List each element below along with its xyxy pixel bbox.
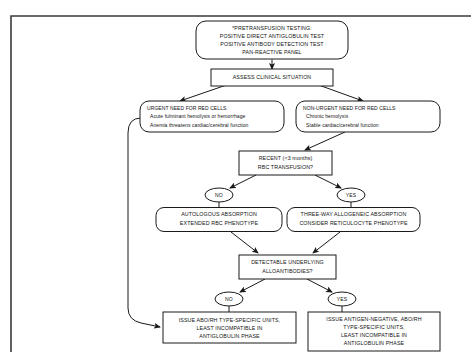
flowchart-diagram: *PRETRANSFUSION TESTING: POSITIVE DIRECT… — [0, 0, 471, 363]
connector-assess-to-urgent — [180, 86, 225, 102]
connector-detectable-to-no — [240, 279, 265, 292]
issue-type-specific-line-1: ISSUE ABO/RH TYPE-SPECIFIC UNITS, — [179, 317, 281, 323]
node-urgent-need: URGENT NEED FOR RED CELLS Acute fulminan… — [140, 101, 284, 132]
assess-clinical-situation-line-1: ASSESS CLINICAL SITUATION — [233, 74, 312, 80]
connector-group — [128, 60, 363, 328]
issue-antigen-negative-line-2: TYPE-SPECIFIC UNITS, — [343, 324, 404, 330]
issue-antigen-negative-line-4: ANTIGLOBULIN PHASE — [344, 340, 405, 346]
recent-yes-text: YES — [346, 192, 357, 198]
autologous-absorption-line-1: AUTOLOGOUS ABSORPTION — [181, 211, 257, 217]
connector-detectable-to-yes — [307, 279, 332, 292]
node-allogeneic-absorption: THREE-WAY ALLOGENEIC ABSORPTION CONSIDER… — [287, 208, 420, 232]
alloantibodies-no-text: NO — [225, 296, 233, 302]
node-recent-transfusion: RECENT (<3 months) RBC TRANSFUSION? — [239, 151, 332, 175]
detectable-alloantibodies-line-1: DETECTABLE UNDERLYING — [251, 259, 324, 265]
alloantibodies-yes-text: YES — [337, 296, 348, 302]
decision-label-recent-yes: YES — [337, 188, 365, 202]
issue-type-specific-line-2: LEAST INCOMPATIBLE IN — [196, 325, 262, 331]
pretransfusion-testing-line-3: POSITIVE ANTIBODY DETECTION TEST — [220, 41, 324, 47]
pretransfusion-testing-line-1: *PRETRANSFUSION TESTING: — [232, 25, 312, 31]
node-issue-type-specific: ISSUE ABO/RH TYPE-SPECIFIC UNITS, LEAST … — [163, 312, 296, 343]
pretransfusion-testing-line-2: POSITIVE DIRECT ANTIGLOBULIN TEST — [220, 33, 325, 39]
allogeneic-absorption-line-2: CONSIDER RETICULOCYTE PHENOTYPE — [299, 220, 408, 226]
recent-transfusion-line-1: RECENT (<3 months) — [259, 155, 313, 161]
node-detectable-alloantibodies: DETECTABLE UNDERLYING ALLOANTIBODIES? — [239, 255, 336, 279]
connector-autologous-to-detectable — [231, 232, 258, 253]
issue-antigen-negative-line-3: LEAST INCOMPATIBLE IN — [341, 332, 407, 338]
autologous-absorption-line-2: EXTENDED RBC PHENOTYPE — [180, 220, 259, 226]
connector-urgent-feedback-loop — [128, 118, 160, 327]
connector-assess-to-non-urgent — [320, 86, 363, 102]
non-urgent-need-line-1: NON-URGENT NEED FOR RED CELLS — [303, 105, 396, 111]
pretransfusion-testing-line-4: PAN-REACTIVE PANEL — [242, 49, 301, 55]
urgent-need-line-3: Anemia threatens cardiac/cerebral functi… — [150, 122, 249, 128]
detectable-alloantibodies-line-2: ALLOANTIBODIES? — [262, 268, 312, 274]
node-pretransfusion-testing: *PRETRANSFUSION TESTING: POSITIVE DIRECT… — [196, 21, 348, 59]
recent-no-text: NO — [215, 192, 223, 198]
node-assess-clinical-situation: ASSESS CLINICAL SITUATION — [211, 69, 333, 86]
urgent-need-line-1: URGENT NEED FOR RED CELLS — [147, 105, 227, 111]
issue-type-specific-line-3: ANTIGLOBULIN PHASE — [199, 333, 260, 339]
connector-non-urgent-to-recent — [305, 132, 345, 150]
connector-allogeneic-to-detectable — [313, 232, 340, 253]
node-issue-antigen-negative: ISSUE ANTIGEN-NEGATIVE, ABO/RH TYPE-SPEC… — [308, 312, 440, 351]
allogeneic-absorption-line-1: THREE-WAY ALLOGENEIC ABSORPTION — [301, 211, 407, 217]
flowchart-canvas: *PRETRANSFUSION TESTING: POSITIVE DIRECT… — [0, 0, 471, 363]
urgent-need-line-2: Acute fulminant hemolysis or hemorrhage — [150, 113, 246, 119]
decision-label-alloantibodies-no: NO — [215, 292, 243, 306]
decision-label-recent-no: NO — [205, 188, 233, 202]
non-urgent-need-line-3: Stable cardiac/cerebral function — [306, 122, 379, 128]
connector-recent-to-no — [230, 175, 256, 188]
non-urgent-need-line-2: Chronic hemolysis — [306, 113, 349, 119]
connector-recent-to-yes — [315, 175, 341, 188]
node-autologous-absorption: AUTOLOGOUS ABSORPTION EXTENDED RBC PHENO… — [156, 208, 282, 232]
recent-transfusion-line-2: RBC TRANSFUSION? — [258, 164, 313, 170]
issue-antigen-negative-line-1: ISSUE ANTIGEN-NEGATIVE, ABO/RH — [326, 316, 421, 322]
decision-label-alloantibodies-yes: YES — [328, 292, 356, 306]
node-non-urgent-need: NON-URGENT NEED FOR RED CELLS Chronic he… — [296, 101, 440, 132]
